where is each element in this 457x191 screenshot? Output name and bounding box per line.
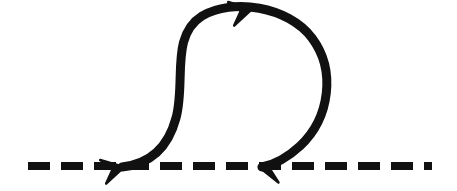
figure-canvas: Looping trajectory over dashed baseline [0, 0, 457, 191]
loop-diagram-svg [0, 0, 457, 191]
